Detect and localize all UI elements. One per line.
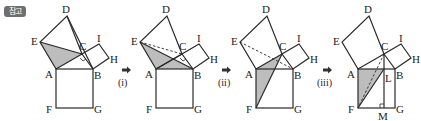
svg-text:B: B — [194, 69, 201, 81]
svg-text:G: G — [94, 103, 102, 115]
panel-3 — [240, 16, 309, 108]
panel-1 — [40, 16, 109, 108]
svg-text:G: G — [396, 103, 404, 115]
svg-text:G: G — [294, 103, 302, 115]
svg-text:A: A — [145, 68, 153, 80]
svg-text:F: F — [46, 103, 52, 115]
svg-text:D: D — [62, 3, 70, 15]
svg-text:E: E — [131, 35, 138, 47]
svg-text:M: M — [378, 110, 388, 121]
svg-text:B: B — [294, 69, 301, 81]
svg-text:I: I — [197, 32, 201, 44]
step-label-iii: (iii) — [317, 77, 332, 89]
svg-text:E: E — [333, 35, 340, 47]
svg-text:D: D — [262, 3, 270, 15]
svg-text:C: C — [179, 40, 186, 52]
panel-4-labels: D E C I H A B L F M G — [333, 3, 420, 121]
svg-text:F: F — [348, 103, 354, 115]
svg-text:I: I — [297, 32, 301, 44]
svg-text:A: A — [45, 68, 53, 80]
panel-2 — [140, 16, 209, 108]
svg-text:H: H — [210, 53, 218, 65]
step-label-i: (i) — [118, 77, 127, 89]
arrow-icon — [222, 67, 231, 74]
pythagorean-proof-diagram: (i) (ii) (iii) D E C I H A B F G D E C I… — [0, 0, 421, 121]
svg-text:E: E — [31, 35, 38, 47]
svg-text:E: E — [231, 35, 238, 47]
svg-text:C: C — [381, 40, 388, 52]
svg-text:D: D — [364, 3, 372, 15]
svg-text:B: B — [396, 69, 403, 81]
svg-text:B: B — [94, 69, 101, 81]
panel-4 — [342, 16, 411, 108]
svg-text:G: G — [194, 103, 202, 115]
svg-text:A: A — [347, 68, 355, 80]
svg-text:H: H — [310, 53, 318, 65]
svg-text:L: L — [385, 72, 392, 84]
svg-text:C: C — [79, 40, 86, 52]
svg-text:H: H — [110, 53, 118, 65]
shaded-triangle — [40, 42, 82, 69]
svg-text:C: C — [279, 40, 286, 52]
arrow-icon — [122, 67, 131, 74]
svg-text:F: F — [246, 103, 252, 115]
step-label-ii: (ii) — [218, 77, 230, 89]
svg-text:H: H — [412, 53, 420, 65]
svg-text:D: D — [162, 3, 170, 15]
svg-text:A: A — [245, 68, 253, 80]
svg-text:I: I — [399, 32, 403, 44]
arrow-icon — [323, 67, 332, 74]
svg-text:F: F — [146, 103, 152, 115]
svg-text:I: I — [97, 32, 101, 44]
